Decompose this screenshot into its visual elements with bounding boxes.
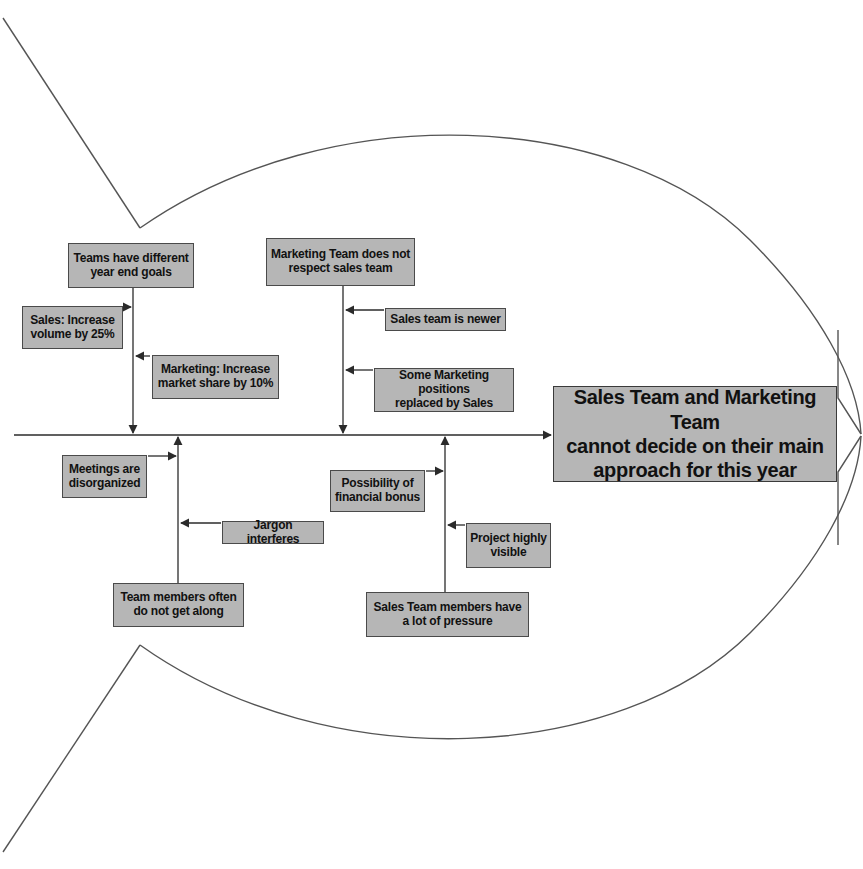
cause-financial-bonus[interactable]: Possibility of financial bonus [330,470,425,512]
fish-tail-lower-fin [3,645,140,852]
cause-marketing-share[interactable]: Marketing: Increase market share by 10% [152,355,279,399]
cause-jargon-interferes[interactable]: Jargon interferes [222,521,324,544]
cause-head-team-members[interactable]: Team members often do not get along [113,583,244,627]
cause-sales-team-newer[interactable]: Sales team is newer [385,308,506,331]
cause-head-goals[interactable]: Teams have different year end goals [68,243,194,288]
fishbone-diagram-canvas: Teams have different year end goals Sale… [0,0,863,869]
cause-head-respect[interactable]: Marketing Team does not respect sales te… [266,238,415,286]
cause-positions-replaced[interactable]: Some Marketing positions replaced by Sal… [374,368,514,412]
cause-meetings-disorganized[interactable]: Meetings are disorganized [62,455,147,498]
effect-statement-box[interactable]: Sales Team and Marketing Team cannot dec… [553,386,837,482]
cause-head-sales-pressure[interactable]: Sales Team members have a lot of pressur… [366,592,529,637]
cause-sales-volume[interactable]: Sales: Increase volume by 25% [22,306,123,349]
fish-tail-upper-fin [3,18,140,228]
cause-project-highly-visible[interactable]: Project highly visible [466,523,551,568]
